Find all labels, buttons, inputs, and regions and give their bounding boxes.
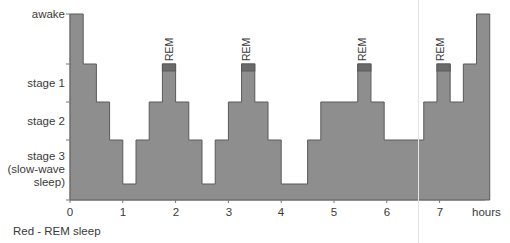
y-label-awake: awake: [32, 8, 65, 22]
x-tick-1: 1: [120, 206, 126, 218]
rem-marker: [162, 64, 175, 71]
y-label-stage1: stage 1: [27, 77, 65, 91]
rem-markers: [162, 64, 450, 71]
rem-label-4: REM: [434, 38, 446, 61]
scan-line-artifact: [418, 0, 419, 243]
y-label-stage3-sub1: (slow-wave: [7, 163, 65, 177]
rem-marker: [437, 64, 450, 71]
hypnogram-area: [70, 14, 490, 200]
rem-label-3: REM: [356, 38, 368, 61]
rem-label-2: REM: [240, 38, 252, 61]
legend-caption: Red - REM sleep: [13, 225, 101, 237]
y-label-stage2: stage 2: [27, 115, 65, 129]
x-tick-4: 4: [278, 206, 284, 218]
y-label-stage3: stage 3: [27, 150, 65, 164]
sleep-stage-chart: [0, 0, 510, 243]
x-tick-3: 3: [226, 206, 232, 218]
y-label-stage3-sub2: sleep): [34, 176, 65, 190]
x-axis-unit: hours: [472, 206, 501, 218]
x-tick-2: 2: [173, 206, 179, 218]
x-tick-7: 7: [437, 206, 443, 218]
rem-marker: [358, 64, 371, 71]
rem-marker: [242, 64, 255, 71]
x-tick-5: 5: [331, 206, 337, 218]
x-tick-6: 6: [384, 206, 390, 218]
x-tick-0: 0: [67, 206, 73, 218]
rem-label-1: REM: [163, 38, 175, 61]
sleep-stage-area: [70, 14, 490, 200]
